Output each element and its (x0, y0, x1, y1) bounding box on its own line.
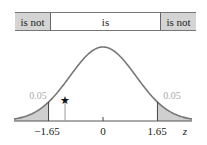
tick-label-1-65: 1.65 (147, 125, 167, 137)
star-icon: ★ (60, 94, 70, 107)
right-tail-area-label: 0.05 (163, 90, 181, 101)
axis-variable-label: z (182, 125, 188, 137)
normal-curve (14, 47, 192, 119)
left-tail-area-label: 0.05 (29, 90, 47, 101)
normal-curve-diagram: ★ 0.05 0.05 −1.65 0 1.65 z (0, 0, 207, 145)
tick-label-neg-1-65: −1.65 (34, 125, 60, 137)
tick-label-0: 0 (100, 125, 106, 137)
